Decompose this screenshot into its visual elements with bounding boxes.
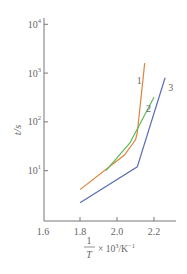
x-tick-label: 1.6 [37,226,50,237]
x-tick-label: 2.2 [148,226,161,237]
y-tick-label: 103 [28,66,41,79]
series-line-3 [80,78,165,203]
series-label-3: 3 [168,82,173,93]
svg-text:× 103/K−1: × 103/K−1 [98,242,135,254]
series-label-2: 2 [146,103,151,114]
y-tick-label: 101 [28,163,41,176]
y-axis: 101102103104 t/s [11,17,48,221]
x-axis-label: 1 T × 103/K−1 [84,235,135,260]
y-tick-label: 102 [28,114,41,127]
x-tick-label: 1.8 [74,226,87,237]
y-tick-label: 104 [28,17,42,30]
series-line-1 [80,63,145,190]
svg-text:1: 1 [87,235,92,246]
series-label-1: 1 [137,75,142,86]
y-axis-label: t/s [11,125,23,135]
x-tick-label: 2.0 [111,226,124,237]
svg-text:T: T [86,249,93,260]
series-group: 123 [80,63,173,203]
chart: 101102103104 t/s 1.61.82.02.2 1 T × 103/… [0,0,187,274]
x-axis: 1.61.82.02.2 1 T × 103/K−1 [37,217,176,260]
